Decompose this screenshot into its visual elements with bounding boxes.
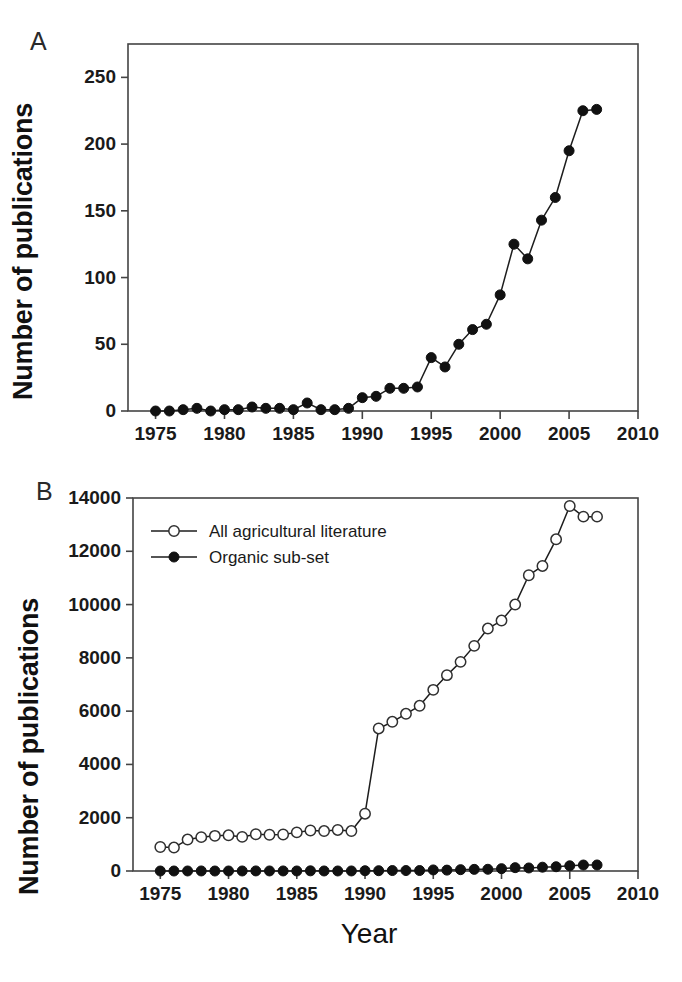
data-point-filled <box>523 254 533 264</box>
data-point-open <box>360 809 370 819</box>
y-tick-label: 0 <box>105 400 116 421</box>
data-point-filled <box>305 866 315 876</box>
data-point-open <box>278 829 288 839</box>
x-tick-label: 1975 <box>139 883 182 904</box>
data-point-open <box>346 826 356 836</box>
data-point-open <box>551 534 561 544</box>
data-point-filled <box>469 864 479 874</box>
data-point-open <box>524 570 534 580</box>
data-point-filled <box>261 403 271 413</box>
data-point-filled <box>385 383 395 393</box>
data-point-open <box>469 641 479 651</box>
data-point-open <box>483 623 493 633</box>
data-point-filled <box>468 325 478 335</box>
x-tick-label: 1990 <box>344 883 386 904</box>
data-point-filled <box>192 403 202 413</box>
data-point-filled <box>247 402 257 412</box>
data-point-open <box>196 832 206 842</box>
y-tick-label: 200 <box>84 133 116 154</box>
panel-a-plot: 0501001502002501975198019851990199520002… <box>0 0 682 470</box>
data-point-open <box>592 511 602 521</box>
data-point-filled <box>302 398 312 408</box>
data-point-open <box>496 615 506 625</box>
legend-marker-open-icon <box>169 526 179 536</box>
data-point-filled <box>592 860 602 870</box>
y-tick-label: 14000 <box>68 487 121 508</box>
data-point-filled <box>251 866 261 876</box>
data-point-filled <box>497 864 507 874</box>
data-point-open <box>373 723 383 733</box>
data-point-filled <box>440 362 450 372</box>
data-point-filled <box>237 866 247 876</box>
data-point-open <box>223 830 233 840</box>
data-point-filled <box>509 239 519 249</box>
panel-b-plot: 0200040006000800010000120001400019751980… <box>0 455 682 982</box>
data-point-open <box>182 834 192 844</box>
data-point-filled <box>330 405 340 415</box>
data-point-open <box>251 829 261 839</box>
series-organic-sub-set <box>151 104 602 416</box>
data-point-filled <box>151 406 161 416</box>
data-point-filled <box>278 866 288 876</box>
data-point-filled <box>537 215 547 225</box>
data-point-filled <box>357 393 367 403</box>
data-point-open <box>210 831 220 841</box>
data-point-filled <box>346 866 356 876</box>
data-point-filled <box>578 106 588 116</box>
data-point-filled <box>483 864 493 874</box>
x-tick-label: 1985 <box>276 883 319 904</box>
data-point-filled <box>224 866 234 876</box>
y-tick-label: 8000 <box>79 647 121 668</box>
data-point-filled <box>206 406 216 416</box>
panel-a: A Number of publications 050100150200250… <box>0 0 682 470</box>
data-point-filled <box>387 866 397 876</box>
x-tick-label: 1990 <box>341 423 383 444</box>
legend-label: Organic sub-set <box>209 548 329 567</box>
x-tick-label: 2010 <box>617 423 659 444</box>
data-point-filled <box>578 860 588 870</box>
y-tick-label: 250 <box>84 66 116 87</box>
data-point-filled <box>333 866 343 876</box>
data-point-filled <box>401 866 411 876</box>
legend-marker-filled-icon <box>169 552 179 562</box>
data-point-filled <box>510 863 520 873</box>
data-point-open <box>319 826 329 836</box>
data-point-filled <box>524 863 534 873</box>
data-point-open <box>169 842 179 852</box>
x-tick-label: 1995 <box>410 423 453 444</box>
series-organic-sub-set <box>155 860 602 876</box>
data-point-filled <box>565 861 575 871</box>
data-point-filled <box>183 866 193 876</box>
data-point-open <box>510 599 520 609</box>
data-point-filled <box>344 403 354 413</box>
y-tick-label: 100 <box>84 267 116 288</box>
data-point-filled <box>264 866 274 876</box>
data-point-filled <box>292 866 302 876</box>
data-point-filled <box>360 866 370 876</box>
x-tick-label: 1980 <box>203 423 245 444</box>
data-point-filled <box>564 146 574 156</box>
data-point-open <box>333 825 343 835</box>
data-point-filled <box>178 405 188 415</box>
y-tick-label: 6000 <box>79 700 121 721</box>
data-point-filled <box>374 866 384 876</box>
data-point-open <box>442 670 452 680</box>
data-point-filled <box>399 383 409 393</box>
data-point-filled <box>456 865 466 875</box>
y-tick-label: 10000 <box>68 594 121 615</box>
data-point-filled <box>551 862 561 872</box>
data-point-open <box>401 709 411 719</box>
data-point-filled <box>592 104 602 114</box>
x-tick-label: 1995 <box>412 883 455 904</box>
data-point-filled <box>412 382 422 392</box>
data-point-filled <box>537 862 547 872</box>
y-tick-label: 4000 <box>79 753 121 774</box>
data-point-filled <box>155 866 165 876</box>
x-tick-label: 1980 <box>207 883 249 904</box>
data-point-open <box>237 832 247 842</box>
y-tick-label: 12000 <box>68 540 121 561</box>
data-point-filled <box>169 866 179 876</box>
data-point-filled <box>275 403 285 413</box>
data-point-open <box>414 701 424 711</box>
data-point-filled <box>426 353 436 363</box>
